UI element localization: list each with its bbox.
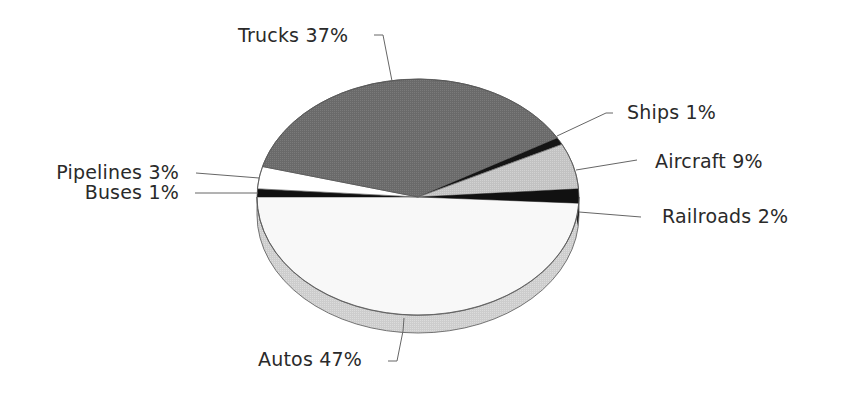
leader-aircraft [576,160,637,170]
label-autos: Autos 47% [258,348,362,370]
label-buses: Buses 1% [85,181,179,203]
label-railroads: Railroads 2% [662,205,788,227]
label-aircraft: Aircraft 9% [655,150,763,172]
leader-pipelines [196,173,259,178]
leader-ships [557,113,613,136]
leader-railroads [579,212,641,217]
label-trucks: Trucks 37% [238,24,348,46]
leader-trucks [374,35,392,81]
label-pipelines: Pipelines 3% [56,161,179,183]
label-ships: Ships 1% [627,101,716,123]
